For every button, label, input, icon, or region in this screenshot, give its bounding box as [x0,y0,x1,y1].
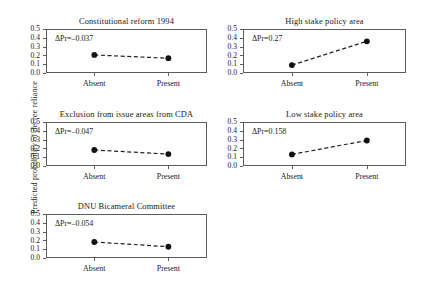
panel-title-dnu-bicameral-committee: DNU Bicameral Committee [46,202,207,211]
data-point-absent [289,62,295,68]
panel-title-constitutional-reform-1994: Constitutional reform 1994 [46,17,207,26]
x-tick-label-present: Present [157,172,180,181]
y-tick-label: 0.4 [228,34,238,42]
y-tick-mark [43,258,46,259]
y-tick-label: 0.5 [31,25,41,33]
y-tick-label: 0.1 [31,245,41,253]
x-tick-label-absent: Absent [281,172,303,181]
y-tick-label: 0.0 [31,162,41,170]
x-tick-label-absent: Absent [281,79,303,88]
x-tick-mark [168,73,169,76]
panel-exclusion-from-issue-areas-from-cda: Exclusion from issue areas from CDA0.00.… [46,122,207,166]
panel-title-exclusion-from-issue-areas-from-cda: Exclusion from issue areas from CDA [46,110,207,119]
x-tick-label-present: Present [355,79,378,88]
data-point-present [364,138,370,144]
y-tick-label: 0.2 [31,237,41,245]
y-tick-label: 0.3 [228,136,238,144]
y-tick-label: 0.4 [228,127,238,135]
y-tick-label: 0.3 [31,228,41,236]
y-tick-label: 0.3 [31,136,41,144]
y-tick-label: 0.2 [31,52,41,60]
y-tick-mark [240,166,243,167]
y-tick-mark [43,166,46,167]
data-point-absent [289,151,295,157]
y-tick-label: 0.4 [31,127,41,135]
data-point-present [165,151,171,157]
y-tick-label: 0.5 [228,118,238,126]
x-tick-mark [168,166,169,169]
x-tick-mark [367,73,368,76]
data-point-present [165,55,171,61]
data-point-present [364,38,370,44]
x-tick-label-absent: Absent [83,79,105,88]
y-tick-label: 0.2 [31,145,41,153]
x-tick-label-absent: Absent [83,172,105,181]
y-tick-label: 0.1 [228,153,238,161]
y-tick-label: 0.3 [31,43,41,51]
panel-low-stake-policy-area: Low stake policy area0.00.10.20.30.40.5A… [243,122,406,166]
connector-line [292,41,367,65]
x-tick-mark [94,73,95,76]
y-tick-label: 0.0 [228,162,238,170]
y-tick-label: 0.5 [31,210,41,218]
y-tick-label: 0.4 [31,34,41,42]
x-tick-mark [367,166,368,169]
connector-line [94,242,168,247]
series-exclusion-from-issue-areas-from-cda [46,122,207,166]
x-tick-label-absent: Absent [83,264,105,273]
series-constitutional-reform-1994 [46,29,207,73]
y-tick-label: 0.4 [31,219,41,227]
x-tick-mark [292,166,293,169]
series-dnu-bicameral-committee [46,214,207,258]
y-tick-label: 0.2 [228,52,238,60]
y-tick-mark [43,73,46,74]
panel-high-stake-policy-area: High stake policy area0.00.10.20.30.40.5… [243,29,406,73]
y-tick-mark [240,73,243,74]
y-tick-label: 0.0 [228,69,238,77]
y-tick-label: 0.2 [228,145,238,153]
data-point-absent [91,52,97,58]
connector-line [94,150,168,154]
panel-title-high-stake-policy-area: High stake policy area [243,17,406,26]
y-tick-label: 0.5 [228,25,238,33]
x-tick-mark [94,258,95,261]
series-low-stake-policy-area [243,122,406,166]
y-tick-label: 0.0 [31,254,41,262]
series-high-stake-policy-area [243,29,406,73]
x-tick-mark [168,258,169,261]
connector-line [94,55,168,58]
data-point-present [165,244,171,250]
y-tick-label: 0.3 [228,43,238,51]
data-point-absent [91,239,97,245]
y-tick-label: 0.5 [31,118,41,126]
x-tick-mark [94,166,95,169]
panel-dnu-bicameral-committee: DNU Bicameral Committee0.00.10.20.30.40.… [46,214,207,258]
y-tick-label: 0.1 [228,60,238,68]
x-tick-label-present: Present [355,172,378,181]
data-point-absent [91,147,97,153]
x-tick-mark [292,73,293,76]
y-tick-label: 0.1 [31,153,41,161]
connector-line [292,140,367,154]
x-tick-label-present: Present [157,79,180,88]
decree-reliance-panel-figure: Predicted probability of decree reliance… [0,0,432,286]
x-tick-label-present: Present [157,264,180,273]
y-tick-label: 0.0 [31,69,41,77]
panel-constitutional-reform-1994: Constitutional reform 19940.00.10.20.30.… [46,29,207,73]
panel-title-low-stake-policy-area: Low stake policy area [243,110,406,119]
y-tick-label: 0.1 [31,60,41,68]
